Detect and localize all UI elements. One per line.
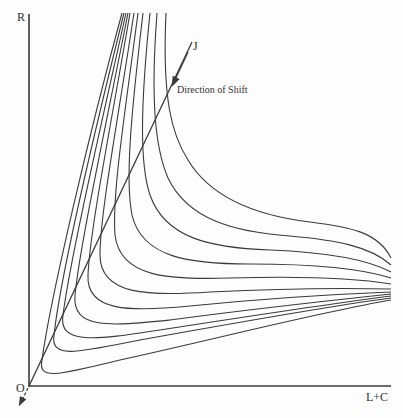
x-axis-label: L+C bbox=[366, 391, 388, 403]
ray-oj bbox=[29, 42, 192, 386]
origin-label: O bbox=[16, 382, 25, 394]
curve-7 bbox=[115, 13, 391, 284]
curve-2 bbox=[54, 13, 391, 351]
ray-endpoint-label: J bbox=[193, 40, 198, 52]
curve-8 bbox=[129, 13, 391, 278]
direction-of-shift-annotation: Direction of Shift bbox=[177, 85, 248, 95]
shift-ray bbox=[21, 42, 192, 402]
curve-10 bbox=[154, 13, 391, 265]
curve-11 bbox=[165, 13, 391, 258]
shift-arrow bbox=[174, 52, 188, 82]
indifference-curve-diagram bbox=[0, 0, 403, 418]
curve-5 bbox=[88, 13, 391, 309]
y-axis-label: R bbox=[17, 11, 25, 23]
curve-1 bbox=[41, 13, 391, 374]
curve-family bbox=[41, 13, 391, 374]
